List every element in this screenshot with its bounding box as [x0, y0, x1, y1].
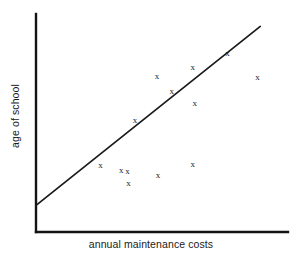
- data-point-marker: x: [156, 170, 161, 180]
- data-point-marker: x: [190, 159, 195, 169]
- data-point-marker: x: [170, 86, 175, 96]
- data-points-group: xxxxxxxxxxxxx: [98, 48, 260, 188]
- data-point-marker: x: [193, 98, 198, 108]
- data-point-marker: x: [155, 71, 160, 81]
- data-point-marker: x: [190, 62, 195, 72]
- data-point-marker: x: [225, 48, 230, 58]
- plot-canvas: xxxxxxxxxxxxx: [0, 0, 302, 261]
- scatter-plot-figure: xxxxxxxxxxxxx age of school annual maint…: [0, 0, 302, 261]
- data-point-marker: x: [133, 115, 138, 125]
- data-point-marker: x: [126, 178, 131, 188]
- data-point-marker: x: [98, 160, 103, 170]
- x-axis-label: annual maintenance costs: [0, 238, 302, 250]
- axes-group: [36, 14, 288, 232]
- data-point-marker: x: [119, 165, 124, 175]
- data-point-marker: x: [125, 166, 130, 176]
- y-axis-label: age of school: [9, 84, 21, 148]
- data-point-marker: x: [255, 72, 260, 82]
